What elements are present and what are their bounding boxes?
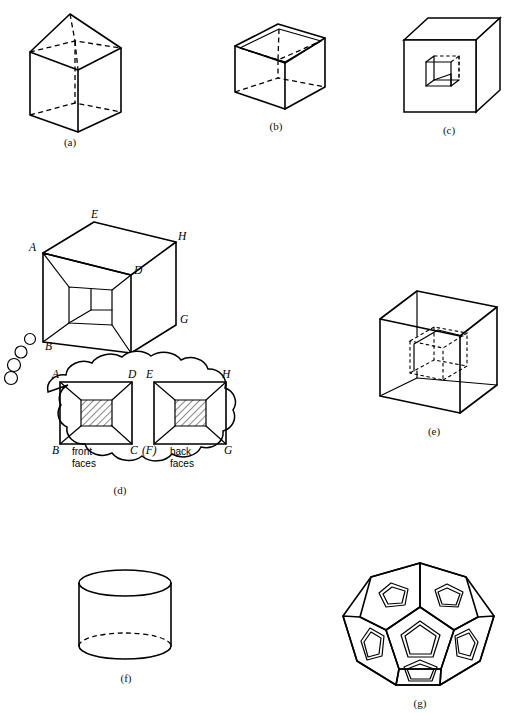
figure-d-thought-bubble: A D B C front faces E H (F) G back faces… <box>14 352 266 482</box>
cavity-edge-bottom-right <box>112 325 131 353</box>
face-bottom <box>396 669 441 685</box>
back-face-label-F: (F) <box>142 444 157 456</box>
outer-cube-back-left-base <box>380 371 417 396</box>
figure-f: (f) <box>72 566 187 678</box>
figure-c-caption: (c) <box>429 124 469 136</box>
thought-circle-1 <box>25 334 36 345</box>
back-face-label-H: H <box>222 368 230 380</box>
inset-center <box>401 621 440 657</box>
cavity-inner-detail <box>91 289 112 310</box>
cube-top-face <box>43 222 176 275</box>
inset-bottom-inner <box>407 664 434 679</box>
inner-cube-overdraw <box>414 330 463 371</box>
figure-a-caption: (a) <box>50 136 90 148</box>
vertex-label-A: A <box>29 241 36 253</box>
cube-front-left-face <box>30 52 78 132</box>
vertex-label-D: D <box>134 264 142 276</box>
cylinder-top-ellipse <box>79 570 171 596</box>
front-face-label-A: A <box>52 368 59 380</box>
figure-d-cube-drawing <box>24 205 234 360</box>
vertex-label-G: G <box>180 313 188 325</box>
box-hidden-base <box>235 78 325 92</box>
pyramid-hidden-apex-edge <box>70 14 75 41</box>
cube-hidden-base-back <box>30 103 121 115</box>
figure-b: (b) <box>228 16 338 116</box>
face-upper-left <box>360 563 420 630</box>
inset-left-inner <box>364 632 381 657</box>
front-faces-caption-line2: faces <box>72 458 96 469</box>
outer-cube-right-face <box>460 307 497 413</box>
cavity-inner-floor-diagonal <box>69 310 91 323</box>
vertex-label-E: E <box>91 208 98 220</box>
back-faces-caption-line2: faces <box>170 458 194 469</box>
cylinder-bottom-back-arc-hidden <box>79 633 171 646</box>
outer-cube-back-right-base <box>417 378 497 385</box>
front-faces-caption-line1: front <box>72 446 92 457</box>
figure-g-drawing <box>330 555 510 705</box>
inset-upper-left-inner <box>383 587 405 604</box>
cube-front-right-face <box>78 48 121 132</box>
back-faces-hatching <box>175 400 206 426</box>
figure-b-drawing <box>228 16 338 116</box>
front-face-label-D: D <box>128 368 136 380</box>
figure-f-drawing <box>72 566 187 678</box>
figure-c: (c) <box>396 12 511 122</box>
figure-g: (g) <box>330 555 510 705</box>
cube-front-face <box>404 40 476 112</box>
cylinder-bottom-front-arc <box>79 646 171 659</box>
vertex-label-H: H <box>178 230 186 242</box>
figure-a: (a) <box>20 8 140 133</box>
inset-bottom <box>404 660 437 681</box>
back-faces-caption-line1: back <box>170 446 191 457</box>
inner-cube-base-back <box>410 360 467 373</box>
figure-e-drawing <box>372 283 512 423</box>
front-faces-hatching <box>81 400 112 426</box>
front-face-label-B: B <box>52 444 59 456</box>
front-face-label-C: C <box>130 444 138 456</box>
figure-e-caption: (e) <box>414 425 454 437</box>
figure-d-cube: E A H D B G C <box>24 205 234 360</box>
cube-front-face <box>43 253 131 353</box>
back-face-label-E: E <box>146 368 153 380</box>
outer-cube-top-face <box>380 291 497 336</box>
figure-g-caption: (g) <box>400 697 440 709</box>
figure-a-drawing <box>20 8 140 133</box>
back-face-label-G: G <box>224 444 232 456</box>
cavity-hidden-top-diagonals <box>240 41 321 60</box>
face-upper-right <box>420 563 478 630</box>
figure-d-caption: (d) <box>100 484 140 496</box>
figure-e: (e) <box>372 283 512 423</box>
inset-upper-right-inner <box>438 588 460 605</box>
cavity-edge-top-right <box>112 275 131 290</box>
cavity-hidden-apex-vertical <box>278 29 279 60</box>
figure-f-caption: (f) <box>106 672 146 684</box>
figure-c-drawing <box>396 12 511 122</box>
inset-right-inner <box>457 633 475 656</box>
vertex-label-B: B <box>45 340 52 352</box>
figure-b-caption: (b) <box>256 120 296 132</box>
